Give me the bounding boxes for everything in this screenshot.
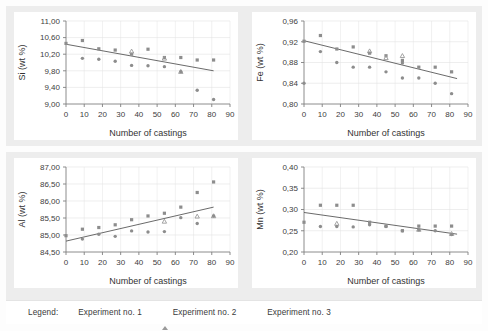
square-marker-icon: [335, 204, 338, 207]
x-axis-title: Number of castings: [347, 128, 425, 138]
y-tick-label: 0,88: [282, 58, 298, 67]
circle-marker-icon: [130, 64, 133, 67]
square-marker-icon: [302, 40, 305, 43]
gridlines: [304, 21, 468, 104]
x-tick-label: 0: [302, 110, 307, 119]
x-tick-label: 80: [207, 110, 216, 119]
x-tick-label: 50: [391, 258, 400, 267]
y-tick-label: 86,50: [40, 180, 61, 189]
circle-marker-icon: [434, 229, 437, 232]
x-tick-label: 90: [464, 258, 473, 267]
square-marker-icon: [81, 228, 84, 231]
circle-marker-icon: [163, 65, 166, 68]
circle-marker-icon: [196, 89, 199, 92]
square-marker-icon: [212, 58, 215, 61]
square-marker-icon: [81, 39, 84, 42]
square-marker-icon: [146, 214, 149, 217]
circle-marker-icon: [179, 70, 182, 73]
circle-marker-icon: [417, 228, 420, 231]
x-tick-label: 30: [354, 258, 363, 267]
y-tick-label: 0,80: [282, 100, 298, 109]
circle-marker-icon: [97, 233, 100, 236]
y-tick-label: 85,00: [40, 231, 61, 240]
y-tick-label: 0,30: [282, 205, 298, 214]
y-tick-label: 11,00: [41, 17, 61, 26]
circle-marker-icon: [352, 65, 355, 68]
chart-card-mn: 0,200,250,300,350,400102030405060708090N…: [252, 158, 476, 288]
figure-root: 9,009,409,8010,2010,6011,000102030405060…: [0, 0, 488, 331]
chart-mn[interactable]: 0,200,250,300,350,400102030405060708090N…: [252, 158, 476, 288]
circle-marker-icon: [434, 82, 437, 85]
square-marker-icon: [319, 34, 322, 37]
chart-si[interactable]: 9,009,409,8010,2010,6011,000102030405060…: [14, 12, 238, 140]
x-tick-label: 20: [336, 258, 345, 267]
legend-item-experiment-3: Experiment no. 3: [256, 308, 331, 317]
y-tick-label: 9,40: [44, 83, 60, 92]
square-marker-icon: [302, 221, 305, 224]
y-tick-label: 84,50: [40, 248, 61, 257]
x-tick-label: 80: [445, 258, 454, 267]
circle-marker-icon: [384, 70, 387, 73]
circle-marker-icon: [368, 65, 371, 68]
y-tick-label: 86,00: [40, 197, 61, 206]
chart-fe[interactable]: 0,800,840,880,920,960102030405060708090N…: [252, 12, 476, 140]
legend-label-experiment-2: Experiment no. 2: [173, 308, 237, 317]
circle-marker-icon: [352, 225, 355, 228]
triangle-marker-icon: [162, 309, 169, 316]
legend-label-experiment-1: Experiment no. 1: [78, 308, 142, 317]
y-tick-label: 85,50: [40, 214, 61, 223]
square-marker-icon: [196, 58, 199, 61]
x-tick-label: 30: [116, 110, 125, 119]
square-marker-icon: [97, 47, 100, 50]
square-marker-icon: [64, 234, 67, 237]
x-tick-label: 40: [372, 110, 381, 119]
x-tick-label: 60: [409, 110, 418, 119]
circle-marker-icon: [450, 92, 453, 95]
circle-marker-icon: [335, 61, 338, 64]
x-tick-label: 70: [427, 258, 436, 267]
circle-marker-icon: [114, 235, 117, 238]
x-tick-label: 60: [171, 110, 180, 119]
chart-al[interactable]: 84,5085,0085,5086,0086,5087,000102030405…: [14, 158, 238, 288]
series-2: [129, 49, 183, 73]
circle-marker-icon: [401, 76, 404, 79]
circle-marker-icon: [335, 225, 338, 228]
x-tick-label: 20: [336, 110, 345, 119]
x-tick-label: 90: [464, 110, 473, 119]
square-marker-icon: [335, 47, 338, 50]
circle-marker-icon: [302, 82, 305, 85]
chart-card-al: 84,5085,0085,5086,0086,5087,000102030405…: [14, 158, 238, 288]
x-tick-label: 20: [98, 258, 107, 267]
x-tick-label: 80: [445, 110, 454, 119]
circle-marker-icon: [114, 60, 117, 63]
series-3: [81, 57, 216, 101]
square-marker-icon: [114, 48, 117, 51]
series-1: [64, 39, 215, 62]
y-tick-label: 0,25: [282, 227, 298, 236]
y-axis-title: Al (wt %): [17, 191, 27, 227]
triangle-marker-icon: [162, 219, 166, 223]
circle-marker-icon: [196, 222, 199, 225]
x-tick-label: 40: [134, 110, 143, 119]
circle-marker-icon: [146, 230, 149, 233]
y-tick-label: 9,00: [44, 100, 60, 109]
legend-item-experiment-2: Experiment no. 2: [162, 308, 237, 317]
square-marker-icon: [434, 224, 437, 227]
y-tick-label: 9,80: [44, 67, 60, 76]
series-3: [302, 50, 453, 95]
x-axis-title: Number of castings: [109, 128, 187, 138]
triangle-marker-icon: [335, 221, 339, 225]
circle-marker-icon: [319, 225, 322, 228]
square-marker-icon: [179, 56, 182, 59]
triangle-marker-icon: [129, 49, 133, 53]
circle-marker-icon: [81, 57, 84, 60]
y-axis-title: Mn (wt %): [255, 189, 265, 230]
square-marker-icon: [97, 226, 100, 229]
x-axis-title: Number of castings: [109, 276, 187, 286]
x-tick-label: 10: [80, 258, 89, 267]
square-marker-icon: [212, 180, 215, 183]
trendline: [304, 41, 457, 79]
circle-marker-icon: [97, 57, 100, 60]
circle-marker-icon: [450, 233, 453, 236]
legend-title: Legend:: [28, 308, 58, 317]
